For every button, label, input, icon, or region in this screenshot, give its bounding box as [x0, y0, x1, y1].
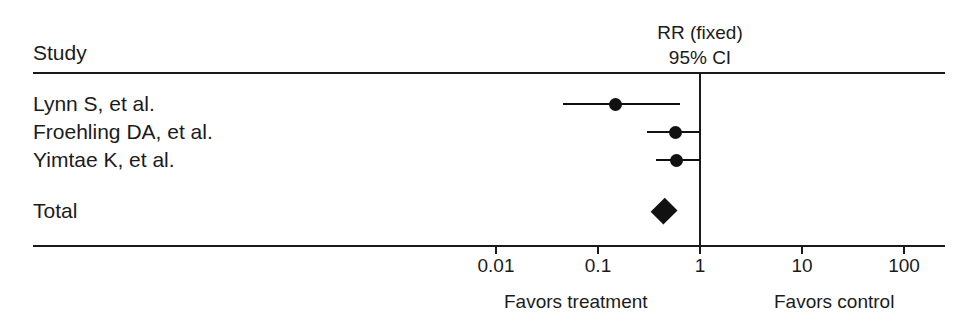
x-axis-tick-1	[699, 245, 701, 254]
x-axis-tick-label-1: 1	[695, 255, 706, 277]
axis-baseline-rule	[33, 245, 945, 247]
header-divider-rule	[33, 72, 945, 74]
x-axis-tick-label-0.1: 0.1	[585, 255, 611, 277]
point-estimate-marker-row-0	[609, 98, 622, 111]
point-estimate-marker-row-2	[670, 154, 683, 167]
confidence-interval-label: 95% CI	[600, 45, 800, 70]
study-label-row-2: Yimtae K, et al.	[33, 148, 175, 172]
favors-control-caption: Favors control	[774, 291, 894, 313]
x-axis-tick-label-10: 10	[791, 255, 812, 277]
null-effect-line	[699, 72, 701, 247]
effect-measure-header: RR (fixed) 95% CI	[600, 20, 800, 70]
favors-treatment-caption: Favors treatment	[504, 291, 648, 313]
confidence-interval-line-row-1	[647, 131, 700, 133]
study-label-row-1: Froehling DA, et al.	[33, 120, 213, 144]
study-column-header: Study	[33, 41, 87, 65]
x-axis-tick-10	[801, 245, 803, 254]
point-estimate-marker-row-1	[669, 126, 682, 139]
effect-measure-label: RR (fixed)	[657, 22, 743, 43]
x-axis-tick-label-100: 100	[888, 255, 920, 277]
confidence-interval-line-row-0	[563, 103, 680, 105]
x-axis-tick-label-0.01: 0.01	[478, 255, 515, 277]
x-axis-tick-100	[903, 245, 905, 254]
x-axis-tick-0.01	[495, 245, 497, 254]
forest-plot: Study RR (fixed) 95% CI Lynn S, et al. F…	[0, 0, 969, 334]
summary-row-label: Total	[33, 199, 77, 223]
summary-diamond-marker	[650, 198, 677, 225]
x-axis-tick-0.1	[597, 245, 599, 254]
study-label-row-0: Lynn S, et al.	[33, 92, 155, 116]
confidence-interval-line-row-2	[656, 159, 700, 161]
